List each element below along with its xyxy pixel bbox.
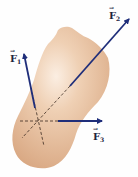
vector-arrow-icon: → <box>93 125 98 132</box>
vector-arrow-icon: → <box>10 47 15 54</box>
f1-label: F 1 → <box>10 47 21 65</box>
rigid-body <box>12 27 109 169</box>
svg-text:2: 2 <box>116 15 120 22</box>
svg-text:1: 1 <box>17 58 21 65</box>
force-diagram: F 1 → F 2 → F 3 → <box>0 0 138 177</box>
f3-label: F 3 → <box>93 125 104 143</box>
svg-text:3: 3 <box>100 136 104 143</box>
vector-arrow-icon: → <box>109 4 114 11</box>
f2-label: F 2 → <box>109 4 120 22</box>
